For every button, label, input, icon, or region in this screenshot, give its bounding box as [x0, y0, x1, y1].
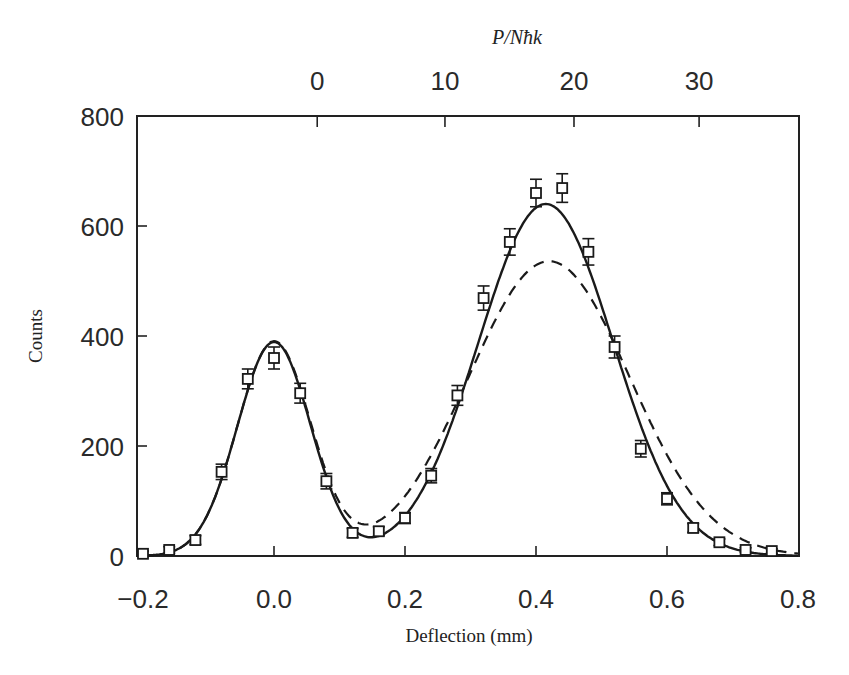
- top-axis-ticks: 0102030: [310, 66, 714, 127]
- data-point: [635, 441, 647, 458]
- y-tick-label: 200: [81, 432, 124, 462]
- data-point: [137, 549, 149, 559]
- data-point: [399, 513, 411, 524]
- y-tick-label: 0: [110, 542, 124, 572]
- data-point: [687, 523, 699, 533]
- x-tick-label: 0.8: [780, 584, 816, 614]
- data-point: [268, 347, 280, 369]
- data-point: [373, 526, 385, 536]
- fit-curves: [143, 204, 798, 556]
- data-point: [451, 386, 463, 406]
- x-axis-title: Deflection (mm): [405, 625, 532, 647]
- x-tick-label: 0.0: [256, 584, 292, 614]
- data-point: [216, 464, 228, 479]
- data-point: [740, 545, 752, 555]
- plot-frame: [137, 116, 799, 556]
- data-point: [189, 535, 201, 545]
- top-tick-label: 30: [685, 66, 714, 96]
- data-point: [347, 528, 359, 538]
- data-point: [530, 179, 542, 207]
- top-tick-label: 10: [430, 66, 459, 96]
- x-tick-label: 0.2: [387, 584, 423, 614]
- top-tick-label: 20: [560, 66, 589, 96]
- data-point: [766, 546, 778, 556]
- data-point: [504, 229, 516, 255]
- data-point: [582, 239, 594, 265]
- data-point: [425, 469, 437, 483]
- y-tick-label: 800: [81, 102, 124, 132]
- x-tick-label: −0.2: [117, 584, 168, 614]
- y-tick-label: 600: [81, 212, 124, 242]
- solid-fit-curve: [143, 204, 798, 556]
- top-tick-label: 0: [310, 66, 324, 96]
- data-point: [556, 174, 568, 203]
- y-tick-label: 400: [81, 322, 124, 352]
- chart: −0.20.00.20.40.60.8 0200400600800 010203…: [0, 0, 849, 675]
- data-point: [320, 474, 332, 489]
- y-axis-title: Counts: [25, 309, 46, 363]
- data-point: [713, 537, 725, 547]
- x-tick-label: 0.6: [649, 584, 685, 614]
- data-points: [137, 174, 778, 559]
- x-tick-label: 0.4: [518, 584, 554, 614]
- data-point: [242, 369, 254, 389]
- data-point: [163, 545, 175, 555]
- top-axis-title: P/Nħk: [491, 26, 543, 48]
- data-point: [478, 286, 490, 310]
- data-point: [661, 493, 673, 505]
